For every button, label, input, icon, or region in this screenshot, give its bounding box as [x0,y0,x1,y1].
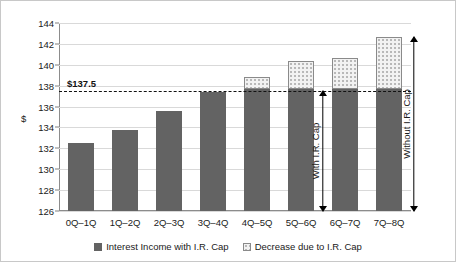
x-axis-tick-label: 6Q–7Q [330,217,361,228]
y-axis-tick-label: 132 [38,143,54,154]
annotation-label: With I.R. Cap [310,123,321,180]
bar-interest-income[interactable] [244,89,270,211]
reference-line [59,91,411,92]
y-axis-tick-label: 144 [38,18,54,29]
annotation-label: Without I.R. Cap [401,89,412,159]
solid-square-icon [94,243,102,251]
bar-slot: 4Q–5Q [235,23,279,211]
bar-decrease-due-to-cap[interactable] [244,77,270,89]
chart-figure: $ 126128130132134136138140142144 0Q–1Q1Q… [0,0,456,262]
legend-item-interest-income: Interest Income with I.R. Cap [94,241,229,252]
bar-interest-income[interactable] [156,111,182,211]
x-axis-tick-label: 4Q–5Q [242,217,273,228]
bar-slot: 6Q–7Q [323,23,367,211]
arrow-head-up-icon [319,90,327,96]
legend-item-decrease: Decrease due to I.R. Cap [243,241,362,252]
x-axis-tick-label: 3Q–4Q [198,217,229,228]
y-axis-tick-label: 134 [38,122,54,133]
dotted-square-icon [243,243,251,251]
y-axis-tick-label: 128 [38,185,54,196]
y-axis-tick-label: 136 [38,101,54,112]
bar-slot: 3Q–4Q [191,23,235,211]
plot-area: 126128130132134136138140142144 0Q–1Q1Q–2… [59,23,411,211]
legend-label: Interest Income with I.R. Cap [106,241,229,252]
y-axis-label: $ [21,113,26,124]
x-axis-tick-label: 1Q–2Q [110,217,141,228]
bar-slot: 0Q–1Q [59,23,103,211]
reference-line-label: $137.5 [67,78,96,89]
bar-decrease-due-to-cap[interactable] [332,58,358,89]
y-axis-tick-label: 142 [38,38,54,49]
arrow-shaft [322,91,323,211]
bar-interest-income[interactable] [112,130,138,211]
arrow-shaft [413,37,414,211]
y-axis-tick-label: 140 [38,59,54,70]
gridline [59,211,411,212]
legend-label: Decrease due to I.R. Cap [255,241,362,252]
bar-slot: 1Q–2Q [103,23,147,211]
bar-interest-income[interactable] [68,143,94,211]
x-axis-tick-label: 0Q–1Q [66,217,97,228]
bar-decrease-due-to-cap[interactable] [376,37,402,89]
bar-interest-income[interactable] [200,92,226,211]
arrow-head-up-icon [410,36,418,42]
arrow-head-down-icon [410,206,418,212]
bar-interest-income[interactable] [376,89,402,211]
bar-slot: 2Q–3Q [147,23,191,211]
x-axis-tick-label: 2Q–3Q [154,217,185,228]
bar-decrease-due-to-cap[interactable] [288,61,314,89]
arrow-head-down-icon [319,206,327,212]
y-axis-tick-label: 126 [38,206,54,217]
chart-legend: Interest Income with I.R. Cap Decrease d… [1,241,455,252]
y-axis-tick-label: 138 [38,80,54,91]
x-axis-tick-label: 5Q–6Q [286,217,317,228]
y-axis-tick-label: 130 [38,164,54,175]
bar-slot: 5Q–6Q [279,23,323,211]
x-axis-tick-label: 7Q–8Q [374,217,405,228]
bar-interest-income[interactable] [332,89,358,211]
